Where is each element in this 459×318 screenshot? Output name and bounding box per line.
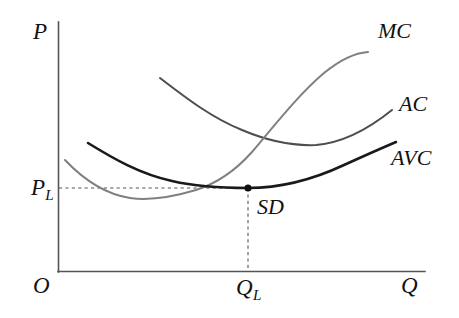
ac-curve [160, 78, 392, 145]
cost-curve-figure: P Q O MC AC AVC SD PL QL [0, 0, 459, 318]
origin-label: O [33, 274, 50, 297]
sd-point-marker [244, 184, 251, 191]
equilibrium-quantity-label: QL [236, 276, 261, 299]
sd-point-label: SD [257, 196, 284, 218]
equilibrium-price-base: P [31, 175, 45, 200]
avc-curve [88, 142, 396, 188]
mc-curve [65, 52, 368, 199]
equilibrium-price-subscript: L [45, 186, 53, 203]
mc-curve-label: MC [378, 20, 411, 42]
equilibrium-quantity-base: Q [236, 275, 253, 300]
equilibrium-quantity-subscript: L [253, 286, 261, 303]
avc-curve-label: AVC [391, 147, 431, 169]
equilibrium-price-label: PL [31, 176, 54, 199]
quantity-axis-label: Q [401, 274, 418, 297]
price-axis-label: P [33, 20, 47, 43]
ac-curve-label: AC [399, 93, 427, 115]
